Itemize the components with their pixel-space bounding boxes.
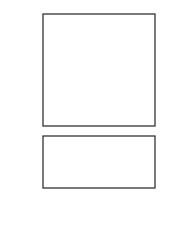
bottom-plot-frame xyxy=(43,136,155,188)
top-plot-frame xyxy=(43,14,155,126)
chart xyxy=(0,0,172,232)
